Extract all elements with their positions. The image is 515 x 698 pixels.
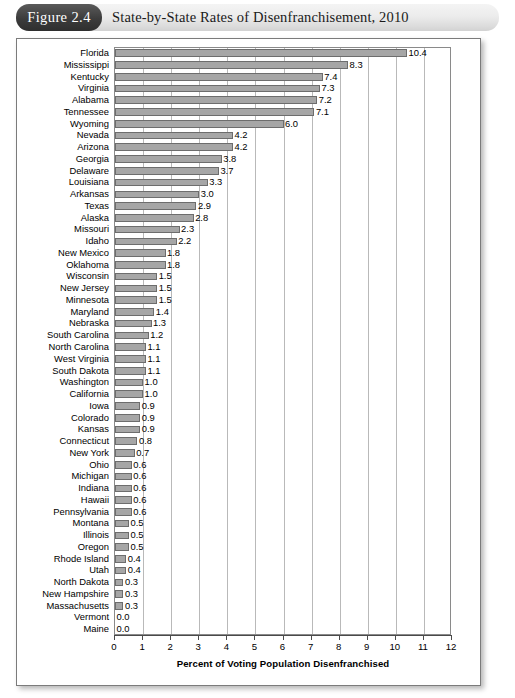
bar-category-label: California [69,388,109,401]
x-axis-tick-label: 11 [408,641,438,652]
bar-value-label: 1.0 [145,376,158,389]
bar [115,285,157,293]
x-axis-tick [114,635,115,640]
bar-category-label: New Mexico [58,247,109,260]
bar-row: Illinois0.5 [0,529,515,542]
bar [115,590,123,598]
bar-category-label: Louisiana [69,176,109,189]
bar-row: Texas2.9 [0,200,515,213]
bar-category-label: Illinois [83,529,109,542]
bar [115,437,137,445]
bar-value-label: 3.3 [209,176,222,189]
bar [115,532,129,540]
bar-value-label: 3.8 [223,153,236,166]
bar-row: Connecticut0.8 [0,435,515,448]
bar [115,508,132,516]
bar-value-label: 1.1 [147,353,160,366]
bar [115,96,317,104]
bar [115,355,146,363]
bar-category-label: Idaho [86,235,109,248]
bar-row: Utah0.4 [0,564,515,577]
bar-value-label: 1.5 [159,294,172,307]
bar [115,261,166,269]
bar-row: New Jersey1.5 [0,282,515,295]
x-axis-tick-label: 8 [324,641,354,652]
bar-category-label: Delaware [69,165,109,178]
x-axis-tick [423,635,424,640]
bar-value-label: 0.9 [142,412,155,425]
bar-category-label: Indiana [78,482,109,495]
bar-value-label: 0.3 [125,600,138,613]
bar-row: Vermont0.0 [0,611,515,624]
bar-row: New York0.7 [0,447,515,460]
bar-row: Nebraska1.3 [0,317,515,330]
bar-category-label: Mississippi [64,59,109,72]
bar-category-label: Tennessee [64,106,109,119]
bar [115,85,320,93]
bar-value-label: 1.2 [150,329,163,342]
bar-category-label: Florida [80,47,109,60]
bar-value-label: 6.0 [285,118,298,131]
bar-value-label: 1.5 [159,282,172,295]
bar-row: Louisiana3.3 [0,176,515,189]
bar-category-label: Missouri [74,223,109,236]
bar [115,108,314,116]
bar-row: Montana0.5 [0,517,515,530]
bar [115,191,199,199]
bar-row: Arkansas3.0 [0,188,515,201]
bar [115,602,123,610]
bar-category-label: Washington [60,376,109,389]
bar [115,520,129,528]
bar-value-label: 1.1 [147,365,160,378]
bar-category-label: Vermont [74,611,109,624]
bar-row: Michigan0.6 [0,470,515,483]
bar-value-label: 0.3 [125,576,138,589]
bar-row: New Hampshire0.3 [0,588,515,601]
bar [115,155,222,163]
bar [115,485,132,493]
bar [115,555,126,563]
x-axis-tick [170,635,171,640]
bar-value-label: 0.5 [131,517,144,530]
bar-value-label: 0.4 [128,553,141,566]
bar-value-label: 0.6 [133,459,146,472]
bar-row: Rhode Island0.4 [0,553,515,566]
bar-value-label: 2.8 [195,212,208,225]
bar [115,473,132,481]
bar-row: Indiana0.6 [0,482,515,495]
bar-category-label: Nevada [77,129,109,142]
bar-row: Georgia3.8 [0,153,515,166]
bar-value-label: 0.3 [125,588,138,601]
bar-row: North Dakota0.3 [0,576,515,589]
bar-value-label: 1.1 [147,341,160,354]
bar-value-label: 4.2 [234,141,247,154]
bar-value-label: 0.6 [133,494,146,507]
bar [115,61,348,69]
x-axis-tick [283,635,284,640]
bar-category-label: Georgia [76,153,109,166]
bar-value-label: 0.8 [139,435,152,448]
bar-category-label: Iowa [89,400,109,413]
bar-category-label: Nebraska [69,317,109,330]
bar [115,414,140,422]
bar-row: Oklahoma1.8 [0,259,515,272]
x-axis-tick-label: 10 [380,641,410,652]
bar [115,214,194,222]
bar-value-label: 7.1 [316,106,329,119]
x-axis-tick-label: 4 [211,641,241,652]
bar-category-label: Colorado [71,412,109,425]
bar-value-label: 1.5 [159,270,172,283]
bar [115,543,129,551]
bar [115,367,146,375]
bar-value-label: 3.0 [201,188,214,201]
bar-row: Wyoming6.0 [0,118,515,131]
x-axis-tick-label: 5 [239,641,269,652]
bar-row: Ohio0.6 [0,459,515,472]
bar-row: Mississippi8.3 [0,59,515,72]
bar [115,320,152,328]
bar-value-label: 2.3 [181,223,194,236]
bar-category-label: Arizona [77,141,109,154]
bar [115,49,407,57]
bar-row: Arizona4.2 [0,141,515,154]
bar-category-label: Maine [83,623,109,636]
